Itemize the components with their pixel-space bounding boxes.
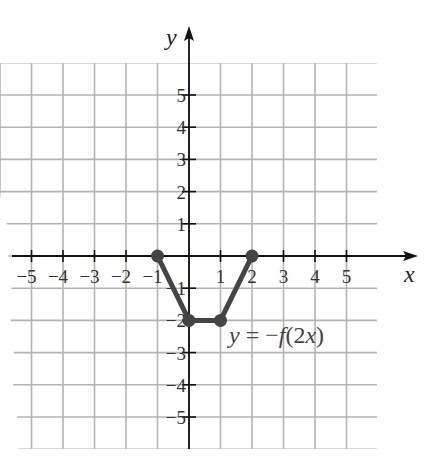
- x-tick-label: −2: [111, 266, 131, 287]
- point-marker: [246, 250, 259, 263]
- point-marker: [183, 314, 196, 327]
- point-marker: [151, 250, 164, 263]
- x-tick-label: 1: [216, 266, 226, 287]
- y-tick-label: −5: [166, 407, 186, 428]
- x-tick-label: −3: [79, 266, 99, 287]
- y-tick-label: 4: [177, 117, 187, 138]
- y-tick-label: 3: [177, 149, 187, 170]
- function-label-eq: = −: [240, 322, 279, 348]
- y-tick-label: 5: [177, 85, 187, 106]
- x-tick-label: −4: [48, 266, 69, 287]
- function-label-close: ): [316, 322, 324, 348]
- y-tick-label: 1: [177, 214, 187, 235]
- x-tick-label: 3: [279, 266, 289, 287]
- function-graph: −5−4−3−2−112345−5−4−3−2−112345 y x y = −…: [0, 0, 436, 469]
- x-tick-label: −1: [142, 266, 162, 287]
- x-tick-label: 5: [342, 266, 352, 287]
- y-tick-label: −3: [166, 343, 186, 364]
- function-label-x: x: [304, 322, 316, 348]
- function-label-arg: (2: [285, 322, 305, 348]
- function-label-y: y: [227, 322, 240, 348]
- function-label: y = −f(2x): [227, 322, 324, 348]
- y-tick-label: −4: [166, 375, 187, 396]
- point-marker: [214, 314, 227, 327]
- x-tick-label: −5: [16, 266, 36, 287]
- x-axis-label: x: [403, 261, 415, 287]
- x-tick-label: 4: [310, 266, 320, 287]
- y-tick-label: 2: [177, 182, 187, 203]
- x-tick-label: 2: [247, 266, 257, 287]
- y-axis-label: y: [164, 24, 177, 50]
